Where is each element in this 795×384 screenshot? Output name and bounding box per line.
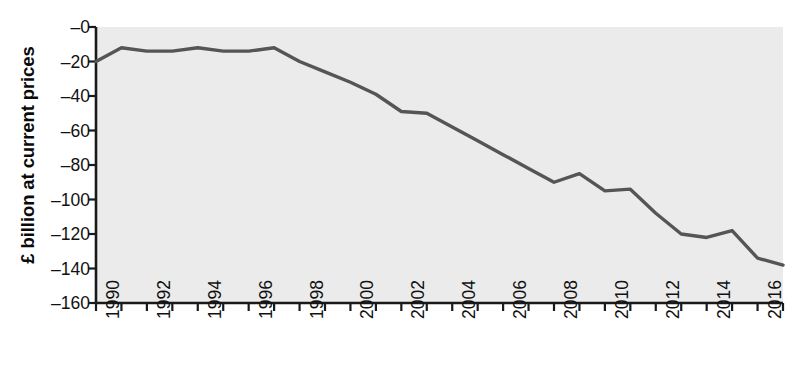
- x-tick-label: 1992: [154, 280, 175, 319]
- x-tick-label: 2002: [408, 280, 429, 319]
- x-tick-label: 2004: [459, 280, 480, 319]
- x-tick-label: 2010: [612, 280, 633, 319]
- x-tick-label: 1990: [103, 280, 124, 319]
- x-tick-label: 2006: [510, 280, 531, 319]
- x-axis-tick-labels: 1990199219941996199820002002200420062008…: [0, 0, 795, 384]
- x-tick-label: 1994: [205, 280, 226, 319]
- x-tick-label: 2012: [663, 280, 684, 319]
- x-tick-label: 1996: [256, 280, 277, 319]
- x-tick-label: 2000: [357, 280, 378, 319]
- x-tick-label: 1998: [307, 280, 328, 319]
- x-tick-label: 2008: [561, 280, 582, 319]
- x-tick-label: 2014: [714, 280, 735, 319]
- chart-figure: £ billion at current prices –0–20–40–60–…: [0, 0, 795, 384]
- x-tick-label: 2016: [765, 280, 786, 319]
